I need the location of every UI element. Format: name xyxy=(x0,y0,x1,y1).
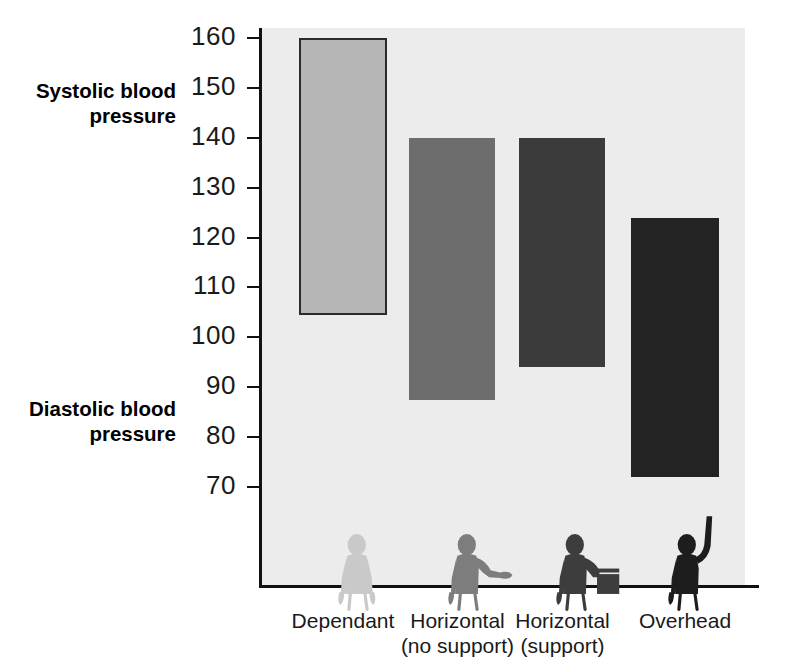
y-tick-label-160: 160 xyxy=(0,21,236,52)
y-tick-140 xyxy=(247,137,260,139)
x-category-label-4-line1: Overhead xyxy=(639,609,731,632)
diastolic-annotation-line1: Diastolic blood xyxy=(29,397,176,420)
bar-2 xyxy=(409,138,495,400)
y-tick-80 xyxy=(247,436,260,438)
y-tick-label-120: 120 xyxy=(0,221,236,252)
bar-1 xyxy=(299,38,387,315)
y-tick-150 xyxy=(247,87,260,89)
bar-4 xyxy=(631,218,719,477)
x-category-label-3-line1: Horizontal xyxy=(515,609,610,632)
systolic-annotation-line1: Systolic blood xyxy=(36,79,176,102)
x-category-label-1-line1: Dependant xyxy=(292,609,395,632)
diastolic-annotation: Diastolic blood pressure xyxy=(0,396,176,446)
x-category-label-2-line1: Horizontal xyxy=(410,609,505,632)
y-tick-90 xyxy=(247,386,260,388)
systolic-annotation: Systolic blood pressure xyxy=(0,78,176,128)
x-category-label-2: Horizontal(no support) xyxy=(395,608,520,657)
y-tick-label-130: 130 xyxy=(0,171,236,202)
y-axis-line xyxy=(259,28,262,587)
x-category-label-3-line2: (support) xyxy=(505,633,620,657)
y-tick-130 xyxy=(247,187,260,189)
x-category-label-2-line2: (no support) xyxy=(395,633,520,657)
y-tick-label-100: 100 xyxy=(0,320,236,351)
y-tick-160 xyxy=(247,37,260,39)
systolic-annotation-line2: pressure xyxy=(89,104,176,127)
y-tick-120 xyxy=(247,237,260,239)
y-tick-label-70: 70 xyxy=(0,470,236,501)
y-tick-110 xyxy=(247,286,260,288)
y-tick-label-110: 110 xyxy=(0,270,236,301)
figure-overhead xyxy=(648,513,778,657)
x-category-label-1: Dependant xyxy=(288,608,398,633)
chart-root: 160150140130120110100908070 Systolic blo… xyxy=(0,0,786,657)
x-category-label-4: Overhead xyxy=(625,608,745,633)
diastolic-annotation-line2: pressure xyxy=(89,422,176,445)
y-tick-100 xyxy=(247,336,260,338)
x-category-label-3: Horizontal(support) xyxy=(505,608,620,657)
bar-3 xyxy=(519,138,605,367)
y-tick-70 xyxy=(247,486,260,488)
